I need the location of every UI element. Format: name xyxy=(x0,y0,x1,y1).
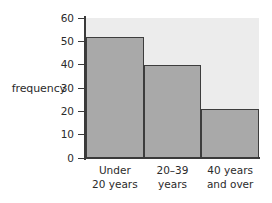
y-tick-label: 60 xyxy=(44,13,74,24)
category-label-2: 20–39years xyxy=(144,163,202,191)
y-tick-label: 20 xyxy=(44,106,74,117)
category-label-line: 20 years xyxy=(86,177,144,191)
category-label-line: and over xyxy=(201,177,259,191)
y-tick-label: 0 xyxy=(44,153,74,164)
bar-1 xyxy=(86,37,144,158)
y-tick-mark xyxy=(78,41,85,42)
bar-3 xyxy=(201,109,259,158)
category-label-3: 40 yearsand over xyxy=(201,163,259,191)
y-tick-label: 50 xyxy=(44,36,74,47)
y-tick-mark xyxy=(78,18,85,19)
category-label-line: 20–39 xyxy=(144,163,202,177)
y-tick-label: 40 xyxy=(44,59,74,70)
y-tick-mark xyxy=(78,64,85,65)
bar-2 xyxy=(144,65,202,158)
y-tick-mark xyxy=(78,134,85,135)
y-tick-mark xyxy=(78,111,85,112)
category-label-1: Under20 years xyxy=(86,163,144,191)
category-label-line: years xyxy=(144,177,202,191)
y-tick-mark xyxy=(78,88,85,89)
y-tick-label: 10 xyxy=(44,129,74,140)
y-tick-label: 30 xyxy=(44,83,74,94)
category-label-line: 40 years xyxy=(201,163,259,177)
category-label-line: Under xyxy=(86,163,144,177)
histogram-figure: frequency 0102030405060 Under20 years20–… xyxy=(0,0,272,203)
y-tick-mark xyxy=(78,158,85,159)
x-axis-line xyxy=(84,157,260,159)
